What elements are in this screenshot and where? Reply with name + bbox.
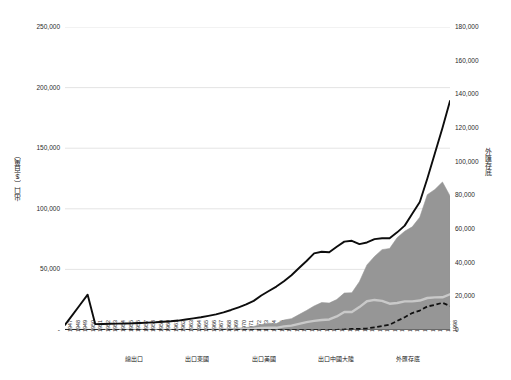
series-area-total-exports [65,182,450,330]
y-tick-right: 60,000 [455,225,475,232]
legend-label: 出口美國 [252,356,276,363]
plot-area [65,27,450,330]
y-tick-right: 100,000 [455,158,479,165]
y-tick-left: 250,000 [22,23,60,30]
legend-item[interactable]: 出口東國 [160,356,209,363]
x-tick: 1998 [452,320,458,332]
y-axis-right-title: 外匯存底 [484,148,492,176]
chart-container: 出口（$百萬） 外匯存底 250,000200,000150,000100,00… [0,0,511,380]
legend-item[interactable]: 出口中國大陸 [293,356,354,363]
y-tick-right: 140,000 [455,90,479,97]
legend-label: 總出口 [125,356,143,363]
y-tick-left: 150,000 [22,144,60,151]
chart-svg [65,27,450,330]
y-tick-right: 120,000 [455,124,479,131]
legend-item[interactable]: 出口美國 [227,356,276,363]
y-tick-right: 80,000 [455,191,475,198]
y-tick-left: 100,000 [22,205,60,212]
legend-label: 出口中國大陸 [318,356,354,363]
legend-label: 出口東國 [185,356,209,363]
legend-item[interactable]: 總出口 [100,356,143,363]
y-tick-left: 50,000 [22,265,60,272]
y-tick-right: 20,000 [455,292,475,299]
chart-legend: 總出口出口東國出口美國出口中國大陸外匯存底 [100,349,420,369]
y-tick-right: 40,000 [455,259,475,266]
legend-item[interactable]: 外匯存底 [371,356,420,363]
y-tick-left: - [22,326,60,333]
y-tick-right: 180,000 [455,23,479,30]
legend-label: 外匯存底 [396,356,420,363]
y-axis-left-title: 出口（$百萬） [14,152,22,201]
y-tick-right: 160,000 [455,57,479,64]
y-tick-left: 200,000 [22,84,60,91]
